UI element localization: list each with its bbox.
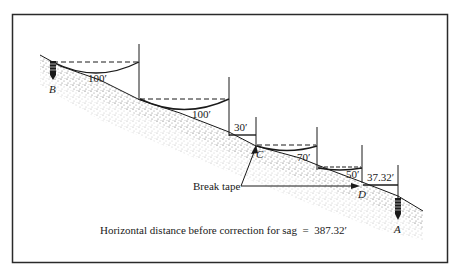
segment-6-label: 37.32′ [367,171,394,183]
segment-4-label: 70′ [297,151,310,163]
segment-3-label: 30′ [234,121,247,133]
point-c-label: C [256,148,264,160]
caption-text: Horizontal distance before correction fo… [100,224,347,236]
segment-1-label: 100′ [88,72,107,84]
taping-diagram: 100′ 100′ 30′ 70′ 50′ 37.32′ [0,0,461,272]
segment-2-label: 100′ [192,108,211,120]
point-b-label: B [49,83,56,95]
point-d-label: D [357,188,366,200]
point-a-label: A [393,223,401,235]
break-tape-label: Break tape [193,180,240,192]
segment-5-label: 50′ [346,168,359,180]
